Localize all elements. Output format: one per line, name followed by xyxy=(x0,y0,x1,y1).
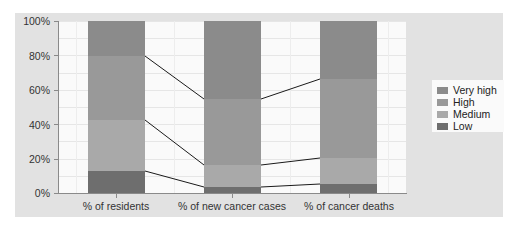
legend-label: Very high xyxy=(453,84,497,96)
segment-medium xyxy=(88,120,145,171)
segment-medium xyxy=(320,158,377,184)
x-axis xyxy=(54,193,407,194)
bar-residents xyxy=(88,21,145,193)
y-tick xyxy=(54,124,58,125)
legend-label: High xyxy=(453,96,475,108)
legend-swatch-icon xyxy=(437,123,448,130)
legend-item-medium: Medium xyxy=(437,108,490,120)
y-tick-label: 80% xyxy=(16,50,50,62)
y-tick-label: 40% xyxy=(16,119,50,131)
legend-swatch-icon xyxy=(437,99,448,106)
segment-high xyxy=(320,79,377,158)
y-axis xyxy=(58,21,59,194)
x-tick xyxy=(349,194,350,198)
segment-medium xyxy=(204,165,261,187)
y-tick-label: 60% xyxy=(16,84,50,96)
bar-new-cancer-cases xyxy=(204,21,261,193)
legend-item-very-high: Very high xyxy=(437,84,497,96)
x-tick xyxy=(116,194,117,198)
segment-high xyxy=(88,56,145,120)
segment-low xyxy=(88,171,145,193)
vertical-gridline xyxy=(290,21,291,193)
x-label-cancer-deaths: % of cancer deaths xyxy=(294,200,404,212)
bar-cancer-deaths xyxy=(320,21,377,193)
y-tick-label: 0% xyxy=(16,187,50,199)
legend-swatch-icon xyxy=(437,87,448,94)
x-label-residents: % of residents xyxy=(66,200,166,212)
legend-swatch-icon xyxy=(437,111,448,118)
vertical-gridline xyxy=(76,21,77,193)
segment-high xyxy=(204,99,261,165)
legend: Very high High Medium Low xyxy=(432,80,504,132)
y-tick xyxy=(54,159,58,160)
x-tick xyxy=(232,194,233,198)
x-label-new-cancer-cases: % of new cancer cases xyxy=(172,200,292,212)
vertical-gridline xyxy=(388,21,389,193)
y-tick xyxy=(54,21,58,22)
segment-very-high xyxy=(204,21,261,99)
segment-very-high xyxy=(88,21,145,56)
vertical-gridline xyxy=(174,21,175,193)
legend-item-low: Low xyxy=(437,120,472,132)
y-tick-label: 100% xyxy=(16,15,50,27)
legend-label: Medium xyxy=(453,108,490,120)
legend-item-high: High xyxy=(437,96,475,108)
y-tick-label: 20% xyxy=(16,153,50,165)
y-tick xyxy=(54,90,58,91)
segment-low xyxy=(320,184,377,193)
segment-very-high xyxy=(320,21,377,79)
y-tick xyxy=(54,55,58,56)
legend-label: Low xyxy=(453,120,472,132)
